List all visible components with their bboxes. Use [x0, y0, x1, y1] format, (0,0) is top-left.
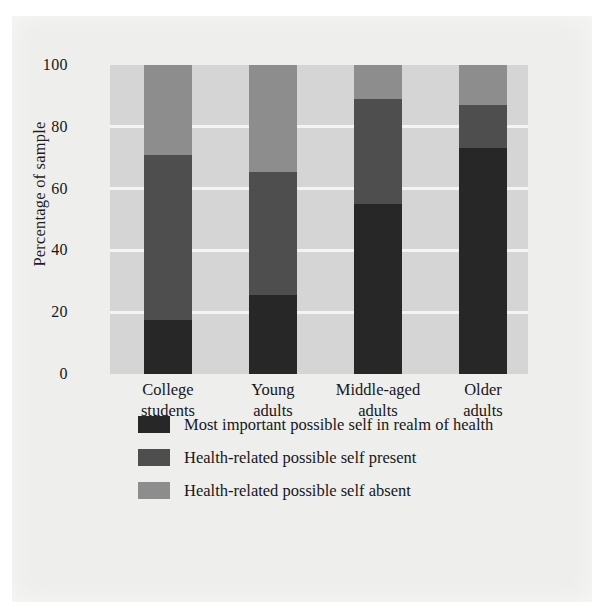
y-axis-tick-80: 80: [8, 118, 68, 136]
bar-segment-most-important: [354, 204, 402, 374]
legend-swatch-most-important: [138, 416, 170, 433]
bar-segment-present: [354, 99, 402, 204]
bar-segment-absent: [354, 65, 402, 99]
bar-segment-present: [459, 105, 507, 148]
legend-label: Health-related possible self absent: [184, 481, 411, 501]
y-axis-tick-40: 40: [8, 241, 68, 259]
bar-older-adults[interactable]: [459, 65, 507, 374]
y-axis-tick-60: 60: [8, 180, 68, 198]
legend-label: Most important possible self in realm of…: [184, 415, 493, 435]
x-axis-label-line-1: Older: [408, 379, 558, 400]
legend-item-most-important[interactable]: Most important possible self in realm of…: [138, 408, 568, 441]
legend-item-absent[interactable]: Health-related possible self absent: [138, 474, 568, 507]
y-axis-tick-100: 100: [8, 56, 68, 74]
legend-label: Health-related possible self present: [184, 448, 416, 468]
y-axis-tick-0: 0: [8, 365, 68, 383]
bar-middle-aged-adults[interactable]: [354, 65, 402, 374]
bar-young-adults[interactable]: [249, 65, 297, 374]
bar-college-students[interactable]: [144, 65, 192, 374]
bar-segment-most-important: [144, 320, 192, 374]
bar-segment-absent: [249, 65, 297, 172]
plot-area: College students Young adults Middle-age…: [110, 65, 528, 374]
bar-segment-absent: [459, 65, 507, 105]
bar-segment-present: [144, 155, 192, 320]
y-axis-tick-20: 20: [8, 303, 68, 321]
bar-segment-absent: [144, 65, 192, 155]
legend-item-present[interactable]: Health-related possible self present: [138, 441, 568, 474]
bar-segment-most-important: [249, 295, 297, 374]
scanned-figure-page: Percentage of sample 100 80 60 40 20 0: [12, 16, 592, 602]
stacked-bar-chart: Percentage of sample 100 80 60 40 20 0: [12, 16, 592, 602]
legend-swatch-present: [138, 449, 170, 466]
legend-swatch-absent: [138, 482, 170, 499]
bar-segment-present: [249, 172, 297, 296]
bar-segment-most-important: [459, 148, 507, 374]
chart-legend: Most important possible self in realm of…: [138, 408, 568, 507]
